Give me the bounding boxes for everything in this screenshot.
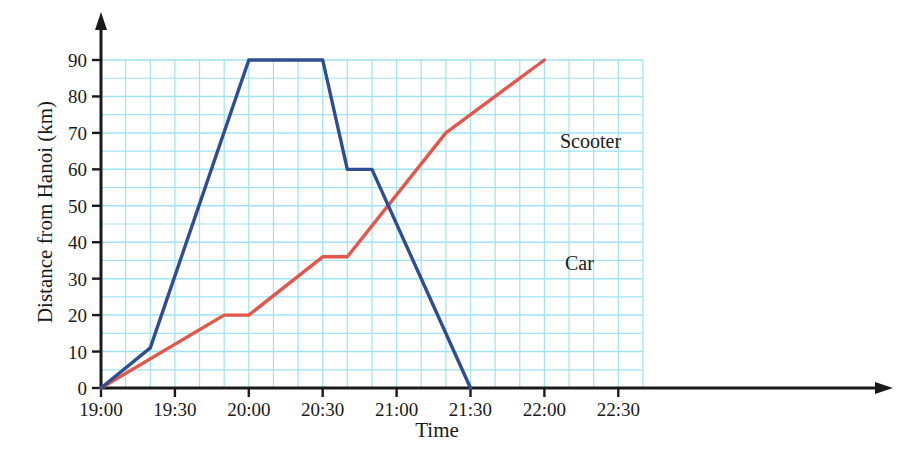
x-tick-label: 22:30 [597, 399, 640, 420]
y-tick-label: 80 [68, 86, 87, 107]
y-tick-label: 30 [68, 269, 87, 290]
chart-container: 0102030405060708090 19:0019:3020:0020:30… [0, 0, 911, 462]
y-tick-label: 90 [68, 50, 87, 71]
x-tick-label: 19:30 [153, 399, 196, 420]
line-chart: 0102030405060708090 19:0019:3020:0020:30… [0, 0, 911, 462]
x-tick-labels: 19:0019:3020:0020:3021:0021:3022:0022:30 [79, 399, 640, 420]
x-tick-label: 20:00 [227, 399, 270, 420]
y-tick-label: 70 [68, 123, 87, 144]
y-tick-label: 20 [68, 305, 87, 326]
y-tick-label: 60 [68, 159, 87, 180]
y-tick-labels: 0102030405060708090 [68, 50, 87, 399]
y-axis-arrowhead [95, 12, 107, 30]
series-label-scooter: Scooter [560, 130, 621, 152]
y-tick-label: 0 [78, 378, 88, 399]
x-tick-label: 21:30 [449, 399, 492, 420]
y-tick-label: 40 [68, 232, 87, 253]
axes [95, 12, 893, 394]
y-axis-title: Distance from Hanoi (km) [33, 101, 57, 323]
x-axis-arrowhead [875, 382, 893, 394]
y-tick-label: 10 [68, 342, 87, 363]
x-tick-label: 20:30 [301, 399, 344, 420]
x-axis-title: Time [415, 418, 459, 442]
y-tick-label: 50 [68, 196, 87, 217]
x-tick-label: 21:00 [375, 399, 418, 420]
series-label-car: Car [565, 252, 594, 274]
x-tick-label: 22:00 [523, 399, 566, 420]
x-tick-label: 19:00 [79, 399, 122, 420]
